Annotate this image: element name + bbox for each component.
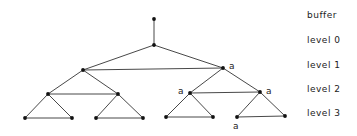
- tree-node: [283, 114, 287, 118]
- level-label-1: level 1: [307, 60, 341, 70]
- tree-edge: [190, 68, 223, 93]
- tree-edge: [83, 45, 154, 70]
- tree-edge: [48, 94, 72, 118]
- tree-edge: [237, 92, 260, 117]
- tree-edge: [260, 92, 285, 116]
- node-label-a: a: [266, 86, 272, 96]
- tree-node: [235, 115, 239, 119]
- tree-edge: [83, 68, 223, 70]
- tree-edge: [223, 68, 260, 92]
- tree-node: [221, 66, 225, 70]
- tree-edge: [166, 93, 190, 117]
- tree-node: [81, 68, 85, 72]
- tree-node: [23, 116, 27, 120]
- level-label-buffer: buffer: [307, 10, 337, 20]
- tree-node: [152, 17, 156, 21]
- tree-node: [211, 115, 215, 119]
- node-label-a: a: [229, 61, 235, 71]
- tree-node: [152, 43, 156, 47]
- tree-node: [164, 115, 168, 119]
- tree-node: [116, 92, 120, 96]
- tree-node: [70, 116, 74, 120]
- tree-edge: [118, 94, 143, 118]
- tree-graph: [0, 0, 357, 136]
- tree-edge: [25, 94, 48, 118]
- tree-diagram: buffer level 0 level 1 level 2 level 3 a…: [0, 0, 357, 136]
- tree-edge: [190, 92, 260, 93]
- tree-edge: [190, 93, 213, 117]
- tree-node: [94, 116, 98, 120]
- node-label-a: a: [233, 121, 239, 131]
- tree-edge: [83, 70, 118, 94]
- tree-edge: [237, 116, 285, 117]
- level-label-2: level 2: [307, 84, 341, 94]
- tree-node: [46, 92, 50, 96]
- tree-edge: [96, 94, 118, 118]
- tree-edge: [48, 70, 83, 94]
- tree-node: [258, 90, 262, 94]
- tree-node: [141, 116, 145, 120]
- node-label-a: a: [178, 86, 184, 96]
- tree-edge: [154, 45, 223, 68]
- level-label-3: level 3: [307, 108, 341, 118]
- level-label-0: level 0: [307, 35, 341, 45]
- tree-node: [188, 91, 192, 95]
